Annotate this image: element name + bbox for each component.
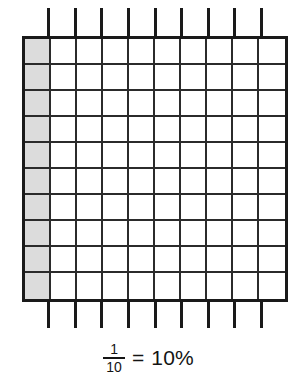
grid-divider-tick-bottom (127, 300, 130, 328)
grid-divider-tick-top (74, 8, 77, 39)
grid-cell (103, 195, 129, 221)
grid-cell-shaded (25, 91, 51, 117)
grid-cell (129, 247, 155, 273)
grid-cell (259, 65, 285, 91)
grid-cell (259, 169, 285, 195)
grid-cell-shaded (25, 65, 51, 91)
grid-cell (207, 91, 233, 117)
grid-cell (207, 169, 233, 195)
grid-cell (155, 143, 181, 169)
grid-cell (129, 169, 155, 195)
grid-cell (181, 247, 207, 273)
grid-divider-tick-bottom (180, 300, 183, 328)
grid-cell-shaded (25, 169, 51, 195)
grid-cell (103, 273, 129, 299)
grid-cell (51, 143, 77, 169)
grid-cell (103, 247, 129, 273)
grid-cell (233, 39, 259, 65)
grid-cell (207, 143, 233, 169)
percent-value: 10% (151, 346, 194, 370)
grid-cell (51, 91, 77, 117)
grid-cell (155, 39, 181, 65)
grid-divider-tick-top (127, 8, 130, 39)
grid-cell (181, 195, 207, 221)
grid-cell (233, 143, 259, 169)
grid-cell (233, 195, 259, 221)
fraction: 1 10 (103, 342, 125, 374)
grid-cell (155, 65, 181, 91)
grid-cell-shaded (25, 273, 51, 299)
grid-cell (259, 143, 285, 169)
grid-cell (233, 169, 259, 195)
grid-cell (77, 117, 103, 143)
grid-cell (77, 39, 103, 65)
grid-cell (155, 221, 181, 247)
grid-divider-tick-top (180, 8, 183, 39)
grid-cell (103, 65, 129, 91)
grid-cell (181, 65, 207, 91)
grid-divider-tick-bottom (100, 300, 103, 328)
grid-cell (129, 273, 155, 299)
grid-cell (259, 247, 285, 273)
grid-cell (103, 117, 129, 143)
grid-cell (207, 39, 233, 65)
grid-cell (181, 143, 207, 169)
grid-cell (77, 247, 103, 273)
grid-cell (233, 65, 259, 91)
grid-divider-tick-top (233, 8, 236, 39)
grid-cell (51, 221, 77, 247)
grid-cell (103, 221, 129, 247)
grid-cell (51, 195, 77, 221)
grid-cell (129, 39, 155, 65)
grid-cell (103, 143, 129, 169)
grid-cell (103, 39, 129, 65)
grid-cell (181, 117, 207, 143)
fraction-numerator: 1 (107, 342, 121, 357)
grid-cell (103, 91, 129, 117)
grid-divider-tick-bottom (154, 300, 157, 328)
grid-cell (77, 169, 103, 195)
grid-cell (155, 169, 181, 195)
percent-grid (22, 36, 288, 302)
grid-divider-tick-bottom (47, 300, 50, 328)
grid-divider-tick-top (207, 8, 210, 39)
grid-cell (129, 195, 155, 221)
grid-cell (77, 273, 103, 299)
grid-divider-tick-bottom (74, 300, 77, 328)
grid-cell-shaded (25, 117, 51, 143)
grid-divider-tick-top (260, 8, 263, 39)
grid-cell (77, 91, 103, 117)
grid-cell (181, 91, 207, 117)
grid-cell (207, 65, 233, 91)
grid-cell (259, 195, 285, 221)
equals-sign: = (132, 346, 144, 370)
grid-cell-shaded (25, 247, 51, 273)
grid-divider-tick-bottom (260, 300, 263, 328)
grid-divider-tick-top (100, 8, 103, 39)
grid-divider-tick-bottom (233, 300, 236, 328)
grid-cell (207, 247, 233, 273)
grid-cell (129, 117, 155, 143)
grid-cell (207, 221, 233, 247)
grid-cell (207, 195, 233, 221)
percent-grid-figure (0, 0, 297, 330)
grid-cell-shaded (25, 221, 51, 247)
grid-divider-tick-top (47, 8, 50, 39)
grid-cell (181, 39, 207, 65)
grid-cell (259, 91, 285, 117)
grid-cell (155, 91, 181, 117)
grid-cell (155, 195, 181, 221)
grid-cell (129, 221, 155, 247)
grid-cell (259, 39, 285, 65)
grid-cell (233, 91, 259, 117)
grid-cell (129, 91, 155, 117)
grid-cell (181, 221, 207, 247)
grid-cell-shaded (25, 195, 51, 221)
grid-cell (51, 169, 77, 195)
grid-cell (233, 273, 259, 299)
grid-cell (51, 117, 77, 143)
grid-cell (51, 39, 77, 65)
grid-cell (77, 65, 103, 91)
grid-cell (77, 195, 103, 221)
grid-cell (155, 247, 181, 273)
